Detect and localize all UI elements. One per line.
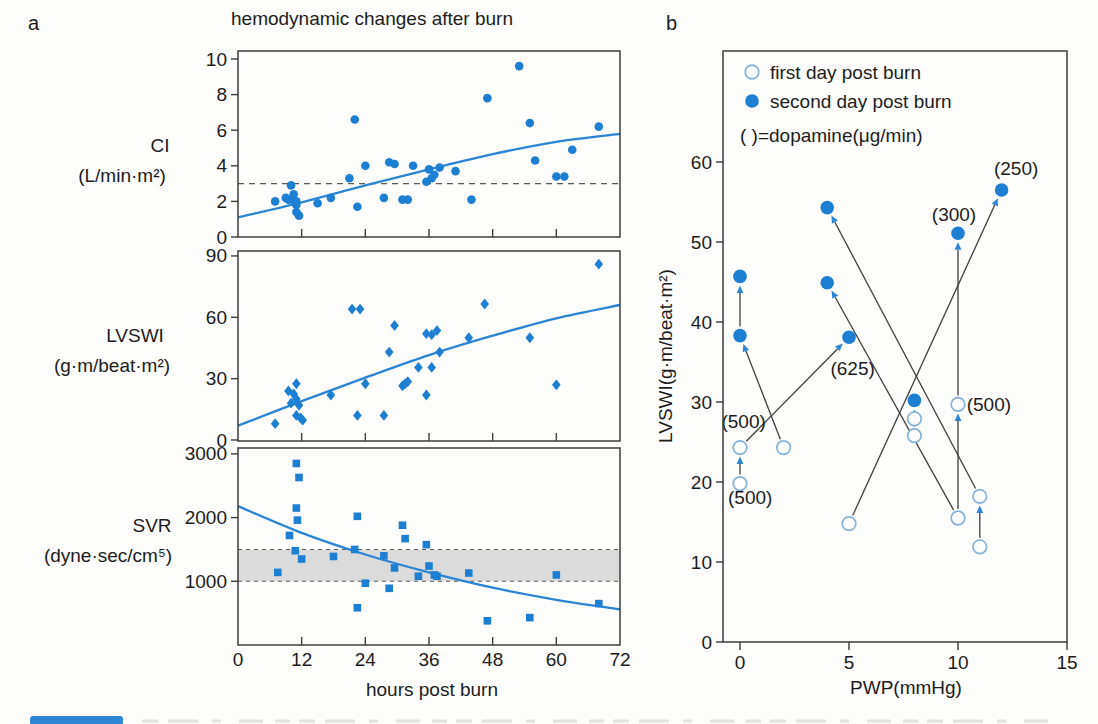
subplot-lvswi: 0306090 bbox=[206, 245, 620, 450]
data-point bbox=[552, 172, 561, 181]
second-day-point bbox=[995, 183, 1009, 197]
panel-a-title: hemodynamic changes after burn bbox=[231, 8, 513, 29]
data-point bbox=[526, 332, 535, 343]
second-day-point bbox=[908, 394, 922, 408]
data-point bbox=[292, 547, 300, 555]
data-point bbox=[403, 195, 412, 204]
treatment-arrow-head bbox=[737, 457, 744, 465]
data-point bbox=[271, 418, 280, 429]
data-point bbox=[287, 181, 296, 190]
y-tick-label: 30 bbox=[206, 368, 227, 389]
data-point bbox=[385, 347, 394, 358]
data-point bbox=[313, 199, 322, 208]
subplot-label-lvswi: LVSWI bbox=[106, 325, 164, 346]
y-tick-label: 90 bbox=[206, 245, 227, 266]
subplot-unit-ci: (L/min·m²) bbox=[78, 165, 166, 186]
data-point bbox=[401, 535, 409, 543]
legend-label-second-day: second day post burn bbox=[770, 91, 952, 112]
data-point bbox=[515, 62, 524, 71]
data-point bbox=[380, 410, 389, 421]
data-point bbox=[423, 541, 431, 549]
data-point bbox=[271, 197, 280, 206]
data-point bbox=[354, 604, 362, 612]
y-tick-label: 60 bbox=[206, 307, 227, 328]
data-point bbox=[526, 614, 534, 622]
data-point bbox=[390, 320, 399, 331]
data-point bbox=[294, 516, 302, 524]
data-point bbox=[295, 474, 303, 482]
data-point bbox=[356, 304, 365, 315]
data-point bbox=[435, 163, 444, 172]
dose-label: (500) bbox=[721, 411, 765, 432]
y-tick-label: 40 bbox=[691, 312, 712, 333]
data-point bbox=[560, 172, 569, 181]
data-point bbox=[526, 119, 535, 128]
x-tick-label: 0 bbox=[735, 652, 746, 673]
y-tick-label: 1000 bbox=[185, 571, 227, 592]
y-axis-label-b: LVSWI(g·m/beat·m²) bbox=[655, 269, 676, 443]
legend-label-first-day: first day post burn bbox=[770, 62, 921, 83]
x-tick-label: 36 bbox=[418, 649, 439, 670]
y-tick-label: 2000 bbox=[185, 507, 227, 528]
x-tick-label: 10 bbox=[947, 652, 968, 673]
first-day-point bbox=[842, 517, 856, 531]
first-day-point bbox=[733, 441, 747, 455]
data-point bbox=[293, 504, 301, 512]
y-tick-label: 10 bbox=[206, 49, 227, 70]
second-day-point bbox=[820, 201, 834, 215]
data-point bbox=[568, 145, 577, 154]
data-point bbox=[353, 202, 362, 211]
data-point bbox=[552, 379, 561, 390]
y-tick-label: 0 bbox=[216, 227, 227, 248]
data-point bbox=[327, 194, 336, 203]
chart-svg: a hemodynamic changes after burn CI (L/m… bbox=[0, 0, 1098, 724]
data-point bbox=[483, 94, 492, 103]
y-tick-label: 50 bbox=[691, 232, 712, 253]
second-day-point bbox=[820, 276, 834, 290]
data-point bbox=[425, 562, 433, 570]
x-tick-label: 48 bbox=[482, 649, 503, 670]
figure-canvas: a hemodynamic changes after burn CI (L/m… bbox=[0, 0, 1098, 724]
y-tick-label: 2 bbox=[216, 191, 227, 212]
data-point bbox=[295, 211, 304, 220]
dose-label: (300) bbox=[932, 204, 976, 225]
data-point bbox=[422, 390, 431, 401]
y-tick-label: 20 bbox=[691, 472, 712, 493]
legend-open-circle-icon bbox=[745, 65, 759, 79]
first-day-point bbox=[973, 540, 987, 554]
treatment-arrow-head bbox=[955, 242, 962, 250]
x-tick-label: 5 bbox=[844, 652, 855, 673]
data-point bbox=[465, 569, 473, 577]
legend-note-dopamine: ( )=dopamine(μg/min) bbox=[740, 125, 923, 146]
data-point bbox=[345, 174, 354, 183]
dose-label: (250) bbox=[994, 158, 1038, 179]
y-tick-label: 4 bbox=[216, 155, 227, 176]
data-point bbox=[286, 532, 294, 540]
data-point bbox=[354, 513, 362, 521]
subplot-svr: 1000200030000122436486072 bbox=[185, 443, 631, 670]
data-point bbox=[415, 572, 423, 580]
y-tick-label: 8 bbox=[216, 84, 227, 105]
subplot-unit-svr: (dyne·sec/cm⁵) bbox=[44, 545, 172, 566]
data-point bbox=[361, 378, 370, 389]
dose-label: (625) bbox=[830, 358, 874, 379]
data-point bbox=[391, 564, 399, 572]
data-point bbox=[594, 122, 603, 131]
subplot-ci: 0246810 bbox=[206, 49, 620, 248]
data-point bbox=[451, 167, 460, 176]
data-point bbox=[433, 572, 441, 580]
data-point bbox=[330, 553, 338, 561]
dose-label: (500) bbox=[967, 394, 1011, 415]
first-day-point bbox=[973, 490, 987, 504]
dose-label: (500) bbox=[728, 487, 772, 508]
x-tick-label: 15 bbox=[1056, 652, 1077, 673]
treatment-arrow-head bbox=[976, 505, 983, 513]
data-point bbox=[362, 579, 370, 587]
y-tick-label: 6 bbox=[216, 120, 227, 141]
data-point bbox=[430, 170, 439, 179]
data-point bbox=[292, 378, 301, 389]
x-tick-label: 0 bbox=[233, 649, 244, 670]
x-tick-label: 12 bbox=[291, 649, 312, 670]
second-day-point bbox=[733, 329, 747, 343]
data-point bbox=[348, 304, 357, 315]
